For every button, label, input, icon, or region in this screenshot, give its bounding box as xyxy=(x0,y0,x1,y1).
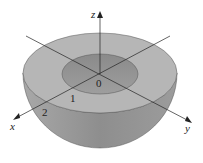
z-axis-arrow-icon xyxy=(97,11,103,18)
origin-label: 0 xyxy=(96,77,102,89)
tick-label-1: 1 xyxy=(70,92,76,104)
hemisphere-shell-diagram: z x y 0 1 2 xyxy=(0,0,203,163)
x-axis-label: x xyxy=(9,120,15,132)
y-axis-label: y xyxy=(184,122,190,134)
tick-label-2: 2 xyxy=(42,106,48,118)
x-axis-arrow-icon xyxy=(13,113,20,120)
z-axis-label: z xyxy=(90,8,96,20)
